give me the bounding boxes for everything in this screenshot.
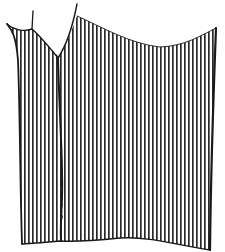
illustration-canvas (0, 0, 225, 252)
left-panel-stripes (7, 24, 60, 244)
striped-panel-illustration (0, 0, 225, 252)
right-panel-stripes (58, 16, 216, 250)
